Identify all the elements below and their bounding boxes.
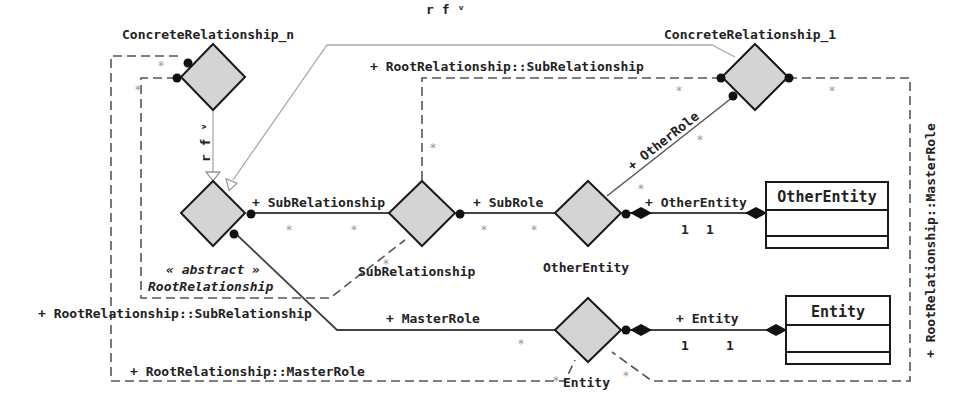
port-dot-icon: [456, 210, 465, 219]
edge-label-rf-vertical: r f ᵛ: [198, 123, 213, 162]
composition-diamond-icon: [745, 207, 767, 219]
port-dot-icon: [622, 210, 631, 219]
multiplicity-one: 1: [681, 338, 689, 353]
composition-diamond-icon: [630, 324, 652, 336]
generalization-arrow-1-icon: [226, 177, 238, 191]
multiplicity-many: *: [638, 182, 644, 196]
port-dot-icon: [230, 230, 239, 239]
edge-label-master-role: + MasterRole: [386, 311, 480, 326]
relationship-label: SubRelationship: [358, 264, 476, 279]
port-dot-icon: [622, 326, 631, 335]
relationship-label: OtherEntity: [543, 260, 629, 275]
multiplicity-many: *: [286, 223, 292, 237]
edge-label-sub-relationship: + SubRelationship: [252, 195, 385, 210]
port-dot-icon: [785, 74, 794, 83]
multiplicity-many: *: [697, 133, 703, 147]
edge-label-other-entity: + OtherEntity: [645, 195, 747, 210]
multiplicity-many: *: [351, 223, 357, 237]
class-name: OtherEntity: [777, 188, 876, 206]
port-dot-icon: [184, 59, 193, 68]
edge-label-root-master-role: + RootRelationship::MasterRole: [923, 123, 938, 358]
composition-diamond-icon: [765, 324, 787, 336]
relationship-other-entity[interactable]: [555, 181, 621, 246]
edge-label-sub-role: + SubRole: [473, 195, 544, 210]
multiplicity-many: *: [383, 257, 389, 271]
multiplicity-many: *: [430, 141, 436, 155]
relationship-label: Entity: [563, 375, 610, 390]
multiplicity-many: *: [623, 369, 629, 383]
multiplicity-many: *: [518, 337, 524, 351]
edge-label-root-sub-relationship: + RootRelationship::SubRelationship: [370, 59, 644, 74]
multiplicity-many: *: [481, 223, 487, 237]
multiplicity-many: *: [676, 84, 682, 98]
port-dot-icon: [173, 74, 182, 83]
multiplicity-many: *: [829, 84, 835, 98]
uml-diagram: OtherEntity Entity ConcreteRelationship_…: [0, 0, 968, 410]
multiplicity-one: 1: [681, 222, 689, 237]
class-other-entity[interactable]: OtherEntity: [766, 182, 888, 248]
relationship-label: RootRelationship: [148, 279, 273, 294]
multiplicity-many: *: [531, 223, 537, 237]
relationship-label: ConcreteRelationship_1: [664, 27, 836, 43]
multiplicity-many: *: [135, 83, 141, 97]
relationship-sub[interactable]: [389, 181, 455, 246]
relationship-label: ConcreteRelationship_n: [122, 27, 294, 43]
edge-label-rf: r f ᵛ: [426, 2, 465, 17]
multiplicity-one: 1: [706, 222, 714, 237]
relationship-concrete-n[interactable]: [181, 44, 245, 110]
edge-label-root-master-role: + RootRelationship::MasterRole: [130, 364, 365, 379]
multiplicity-many: *: [158, 59, 164, 73]
edge-label-root-sub-relationship: + RootRelationship::SubRelationship: [38, 306, 312, 321]
port-dot-icon: [729, 92, 738, 101]
port-dot-icon: [717, 74, 726, 83]
relationship-entity[interactable]: [555, 298, 621, 362]
class-entity[interactable]: Entity: [786, 296, 890, 364]
class-name: Entity: [811, 303, 865, 321]
edge-label-entity: + Entity: [676, 311, 739, 326]
edge-label-other-role: + OtherRole: [625, 108, 702, 173]
stereotype-label: « abstract »: [166, 262, 260, 277]
association-other-role[interactable]: [607, 97, 733, 196]
multiplicity-one: 1: [726, 338, 734, 353]
multiplicity-many: *: [553, 374, 559, 388]
dashed-link-master-role-outer[interactable]: [111, 56, 575, 381]
port-dot-icon: [247, 210, 256, 219]
